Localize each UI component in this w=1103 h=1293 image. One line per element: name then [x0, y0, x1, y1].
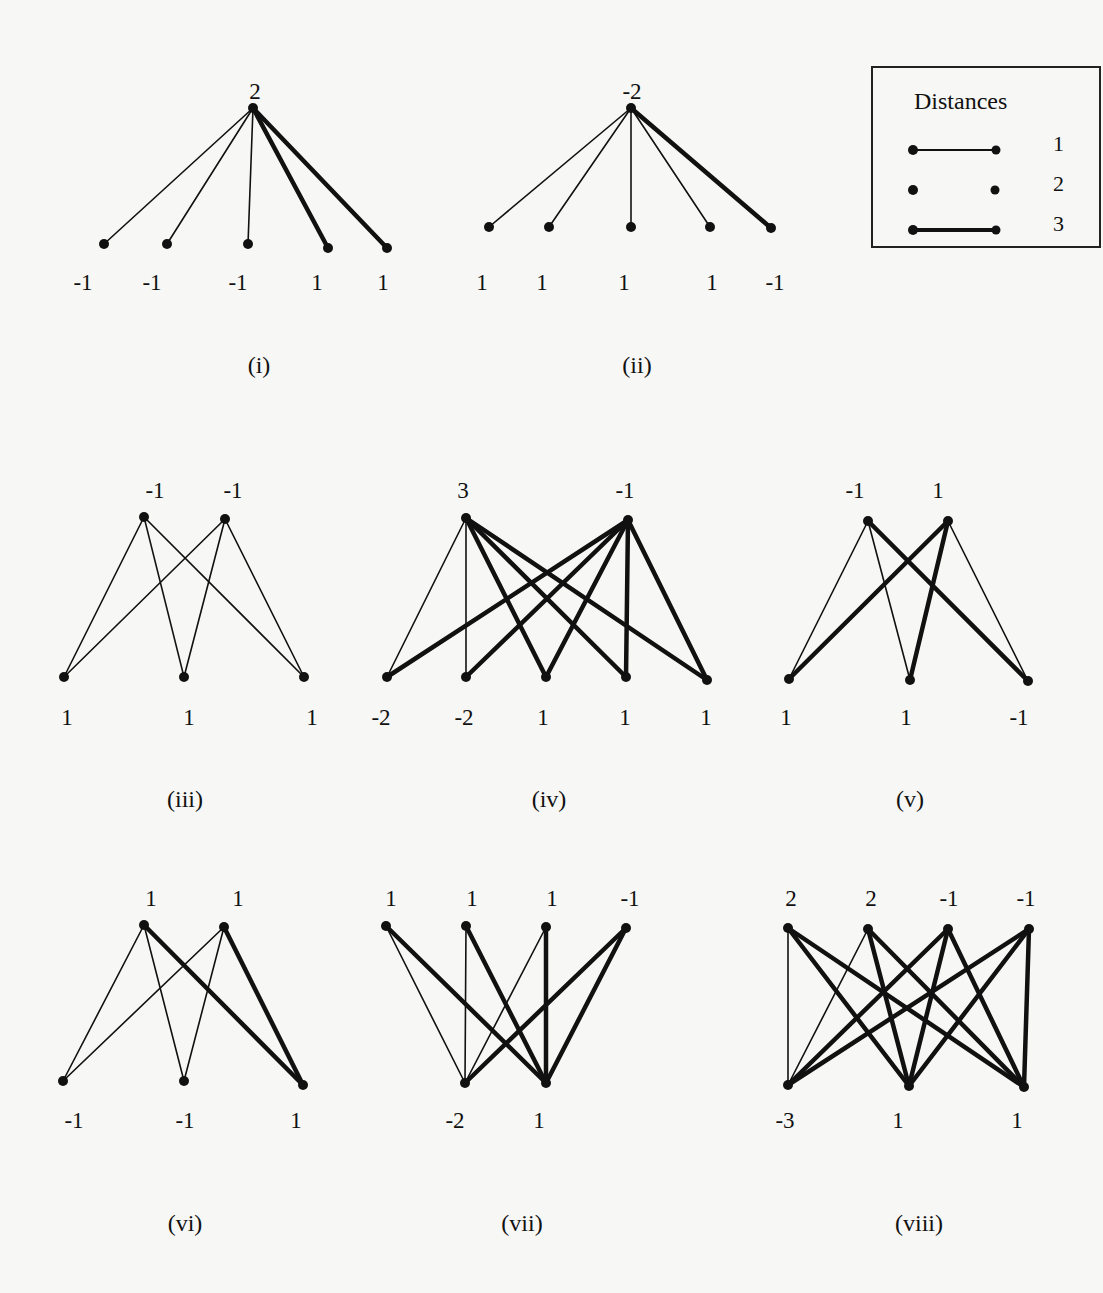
graph-node [541, 1078, 551, 1088]
figure-caption-vi: (vi) [168, 1210, 203, 1237]
graph-node [905, 675, 915, 685]
edges-layer [63, 108, 1029, 1087]
edge-distance-3 [253, 108, 328, 248]
edge-distance-3 [789, 521, 948, 679]
graph-node [784, 674, 794, 684]
edge-distance-1 [184, 927, 224, 1081]
node-label: -1 [64, 1108, 83, 1133]
legend-swatches [873, 68, 1103, 250]
node-label: -1 [615, 478, 634, 503]
graph-node [382, 243, 392, 253]
node-label: 1 [377, 270, 389, 295]
figure-caption-ii: (ii) [622, 352, 651, 379]
figure-vi-edges [63, 925, 303, 1085]
edge-distance-3 [253, 108, 387, 248]
edge-distance-3 [224, 927, 303, 1085]
node-label: 1 [706, 270, 718, 295]
legend-label-1: 1 [1053, 131, 1064, 157]
graph-node [299, 672, 309, 682]
edge-distance-1 [225, 519, 304, 677]
node-label: -1 [228, 270, 247, 295]
node-label: 1 [892, 1108, 904, 1133]
legend-swatch-distance-1 [908, 145, 1001, 155]
figure-iv-edges [387, 518, 707, 680]
node-label: 1 [537, 705, 549, 730]
node-label: 1 [536, 270, 548, 295]
node-label: 2 [785, 886, 797, 911]
node-label: 1 [183, 705, 195, 730]
edge-distance-1 [64, 519, 225, 677]
figure-caption-iv: (iv) [532, 786, 567, 813]
graph-node [705, 222, 715, 232]
edge-distance-1 [184, 519, 225, 677]
node-label: -1 [939, 886, 958, 911]
figure-caption-viii: (viii) [895, 1210, 943, 1237]
graph-node [179, 1076, 189, 1086]
node-label: -1 [73, 270, 92, 295]
figure-v-edges [789, 521, 1028, 681]
edge-distance-1 [789, 521, 868, 679]
figure-caption-i: (i) [248, 352, 271, 379]
node-label: -2 [454, 705, 473, 730]
edge-distance-1 [63, 927, 224, 1081]
node-label: 2 [865, 886, 877, 911]
graph-node [139, 920, 149, 930]
edge-distance-1 [144, 517, 304, 677]
graph-node [783, 923, 793, 933]
edge-distance-1 [144, 517, 184, 677]
graph-node [461, 672, 471, 682]
graph-node [1024, 924, 1034, 934]
figure-ii-edges [489, 108, 771, 228]
edge-distance-3 [631, 108, 771, 228]
edge-distance-1 [948, 521, 1028, 681]
graph-node [461, 513, 471, 523]
graph-node [381, 921, 391, 931]
legend-label-3: 3 [1053, 211, 1064, 237]
node-label: -3 [775, 1108, 794, 1133]
node-label: -2 [371, 705, 390, 730]
node-label: -1 [765, 270, 784, 295]
node-label: 1 [311, 270, 323, 295]
node-label: 1 [546, 886, 558, 911]
node-label: -1 [1009, 705, 1028, 730]
legend-swatch-distance-3 [908, 225, 1001, 235]
node-label: 1 [619, 705, 631, 730]
edge-distance-3 [144, 925, 303, 1085]
node-label: -1 [845, 478, 864, 503]
graph-node [1023, 676, 1033, 686]
graph-node [460, 1078, 470, 1088]
figure-caption-vii: (vii) [501, 1210, 542, 1237]
edge-distance-3 [1024, 929, 1029, 1087]
node-label: -1 [223, 478, 242, 503]
node-label: -2 [622, 79, 641, 104]
edge-distance-1 [167, 108, 253, 244]
node-label: 1 [306, 705, 318, 730]
edge-distance-1 [63, 925, 144, 1081]
graph-node [621, 672, 631, 682]
node-label: 1 [1011, 1108, 1023, 1133]
node-label: -1 [175, 1108, 194, 1133]
node-label: 1 [61, 705, 73, 730]
figure-iii-edges [64, 517, 304, 677]
graph-node [162, 239, 172, 249]
graph-node [99, 239, 109, 249]
figure-caption-iii: (iii) [167, 786, 203, 813]
graph-node [766, 223, 776, 233]
graph-node [626, 222, 636, 232]
node-label: 1 [900, 705, 912, 730]
node-label: 1 [290, 1108, 302, 1133]
node-label: 1 [385, 886, 397, 911]
node-label: 1 [232, 886, 244, 911]
graph-node [544, 222, 554, 232]
graph-node [626, 103, 636, 113]
node-label: 1 [618, 270, 630, 295]
edge-distance-3 [626, 520, 628, 677]
graph-node [139, 512, 149, 522]
edge-distance-3 [546, 928, 626, 1083]
graph-node [484, 222, 494, 232]
edge-distance-1 [64, 517, 144, 677]
edge-distance-3 [910, 521, 948, 680]
figure-vii-edges [386, 926, 626, 1083]
node-label: 2 [249, 79, 261, 104]
figure-viii-edges [788, 928, 1029, 1087]
